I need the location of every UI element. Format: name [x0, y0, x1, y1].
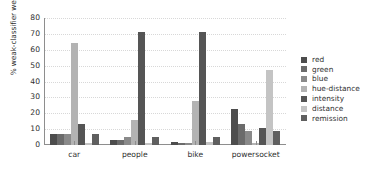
chart-figure: % weak-classifier weights 01020304050607… — [0, 0, 369, 187]
y-tick-label: 10 — [18, 125, 40, 133]
bar-group-bars — [44, 18, 105, 145]
y-tick-label: 70 — [18, 30, 40, 38]
bar — [266, 70, 273, 145]
y-tick-label: 60 — [18, 46, 40, 54]
bar — [206, 142, 213, 145]
bar — [245, 131, 252, 145]
legend-item: blue — [301, 75, 360, 84]
legend-swatch — [301, 76, 307, 82]
bar — [64, 134, 71, 145]
bar-group — [105, 18, 166, 145]
x-tick-label: car — [44, 150, 105, 159]
y-tick-label: 20 — [18, 109, 40, 117]
bar — [85, 143, 92, 145]
plot-area — [44, 18, 286, 145]
bar — [185, 143, 192, 145]
legend-label: green — [312, 66, 333, 73]
legend-item: intensity — [301, 94, 360, 103]
bar — [238, 124, 245, 145]
x-tick-label: people — [105, 150, 166, 159]
bar-group-bars — [165, 18, 226, 145]
y-tick-label: 0 — [18, 141, 40, 149]
legend-swatch — [301, 86, 307, 92]
legend-item: green — [301, 65, 360, 74]
bar-group-bars — [226, 18, 287, 145]
legend-swatch — [301, 96, 307, 102]
bar — [124, 137, 131, 145]
x-tick-mark — [74, 141, 75, 145]
legend-label: remission — [312, 115, 348, 122]
y-tick-label: 40 — [18, 78, 40, 86]
legend-label: hue-distance — [312, 85, 360, 92]
y-tick-label: 30 — [18, 93, 40, 101]
bar — [57, 134, 64, 145]
y-tick-label: 80 — [18, 14, 40, 22]
bar — [273, 131, 280, 145]
bar — [138, 32, 145, 145]
bar-group-bars — [105, 18, 166, 145]
bar — [152, 137, 159, 145]
bar — [78, 124, 85, 145]
bar-groups — [44, 18, 286, 145]
legend-label: distance — [312, 105, 343, 112]
legend-label: intensity — [312, 95, 344, 102]
bar — [259, 128, 266, 145]
bar — [178, 143, 185, 145]
legend-swatch — [301, 106, 307, 112]
bar-group — [44, 18, 105, 145]
x-tick-mark — [195, 141, 196, 145]
bar — [231, 109, 238, 146]
bar — [213, 137, 220, 145]
legend-item: hue-distance — [301, 84, 360, 93]
bar — [192, 101, 199, 145]
legend-swatch — [301, 66, 307, 72]
legend-item: remission — [301, 114, 360, 123]
bar — [50, 134, 57, 145]
legend-item: red — [301, 55, 360, 64]
bar — [199, 32, 206, 145]
legend-label: blue — [312, 75, 328, 82]
y-axis-ticks: 01020304050607080 — [18, 18, 40, 145]
bar — [145, 143, 152, 145]
legend-swatch — [301, 57, 307, 63]
x-axis-tick-labels: carpeoplebikepowersocket — [44, 150, 286, 159]
x-tick-label: powersocket — [226, 150, 287, 159]
x-tick-mark — [256, 141, 257, 145]
bar — [92, 134, 99, 145]
bar-group — [165, 18, 226, 145]
legend-item: distance — [301, 104, 360, 113]
bar — [110, 140, 117, 145]
bar-group — [226, 18, 287, 145]
legend: redgreenbluehue-distanceintensitydistanc… — [301, 55, 360, 123]
bar — [71, 43, 78, 145]
legend-swatch — [301, 115, 307, 121]
x-tick-mark — [135, 141, 136, 145]
x-tick-label: bike — [165, 150, 226, 159]
bar — [171, 142, 178, 145]
y-tick-label: 50 — [18, 62, 40, 70]
legend-label: red — [312, 56, 324, 63]
bar — [117, 140, 124, 145]
